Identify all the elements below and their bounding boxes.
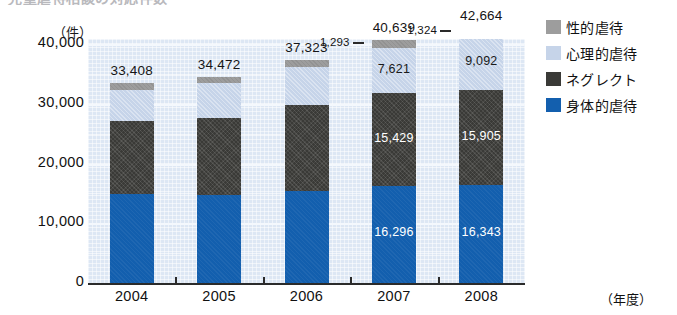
bar-segment-psych-2005[interactable] bbox=[197, 83, 241, 118]
bar-segment-physical-2005[interactable] bbox=[197, 195, 241, 283]
bar-segment-neglect-2004[interactable] bbox=[110, 121, 154, 194]
x-axis-label-2006: 2006 bbox=[272, 288, 342, 304]
x-axis-unit-label: （年度） bbox=[600, 289, 652, 308]
callout-sexual-2008: 1,324 bbox=[407, 24, 451, 36]
bar-2008[interactable]: 9,09215,90516,343 bbox=[459, 39, 503, 283]
bar-total-label-2005: 34,472 bbox=[189, 57, 249, 72]
y-axis-tick-40000: 40,000 bbox=[0, 34, 84, 50]
x-axis-label-2007: 2007 bbox=[359, 288, 429, 304]
callout-leader-line-2007 bbox=[353, 42, 364, 44]
legend-swatch-sexual bbox=[546, 20, 561, 34]
segment-value-physical-2008: 16,343 bbox=[459, 225, 503, 239]
legend-swatch-psych bbox=[546, 46, 561, 60]
x-tick-mark-3 bbox=[438, 277, 440, 285]
x-axis-label-2008: 2008 bbox=[446, 288, 516, 304]
legend-swatch-physical bbox=[546, 98, 561, 112]
bar-segment-psych-2006[interactable] bbox=[285, 67, 329, 105]
legend-item-physical[interactable]: 身体的虐待 bbox=[546, 92, 638, 118]
x-tick-mark-2 bbox=[350, 277, 352, 285]
bar-segment-psych-2004[interactable] bbox=[110, 90, 154, 121]
legend-label-neglect: ネグレクト bbox=[566, 69, 638, 89]
bar-2007[interactable]: 7,62115,42916,296 bbox=[372, 40, 416, 283]
x-tick-mark-0 bbox=[175, 277, 177, 285]
callout-sexual-2007: 1,293 bbox=[320, 36, 364, 48]
callout-leader-line-2008 bbox=[440, 30, 451, 32]
bar-total-label-2004: 33,408 bbox=[102, 63, 162, 78]
bar-2005[interactable] bbox=[197, 77, 241, 283]
legend-label-sexual: 性的虐待 bbox=[566, 17, 623, 37]
callout-value-2007: 1,293 bbox=[320, 36, 350, 48]
bar-segment-psych-2008[interactable]: 9,092 bbox=[459, 39, 503, 90]
x-axis-label-2004: 2004 bbox=[97, 288, 167, 304]
legend-label-physical: 身体的虐待 bbox=[566, 95, 638, 115]
bar-segment-physical-2004[interactable] bbox=[110, 194, 154, 283]
bar-2006[interactable] bbox=[285, 60, 329, 283]
bar-total-label-2008: 42,664 bbox=[451, 8, 511, 23]
y-axis-tick-20000: 20,000 bbox=[0, 154, 84, 170]
stacked-bar-chart-figure: 児童虐待相談の対応件数 （件） 40,00030,00020,00010,000… bbox=[0, 0, 677, 315]
segment-value-psych-2008: 9,092 bbox=[459, 54, 503, 68]
bar-2004[interactable] bbox=[110, 83, 154, 283]
segment-value-neglect-2007: 15,429 bbox=[372, 131, 416, 145]
y-axis-tick-30000: 30,000 bbox=[0, 94, 84, 110]
legend-label-psych: 心理的虐待 bbox=[566, 43, 638, 63]
x-axis-line bbox=[88, 283, 525, 285]
bar-segment-physical-2008[interactable]: 16,343 bbox=[459, 185, 503, 283]
legend-item-neglect[interactable]: ネグレクト bbox=[546, 66, 638, 92]
segment-value-psych-2007: 7,621 bbox=[372, 62, 416, 76]
bar-segment-sexual-2006[interactable] bbox=[285, 60, 329, 67]
segment-value-physical-2007: 16,296 bbox=[372, 225, 416, 239]
legend-item-psych[interactable]: 心理的虐待 bbox=[546, 40, 638, 66]
bar-segment-neglect-2008[interactable]: 15,905 bbox=[459, 90, 503, 185]
bar-segment-psych-2007[interactable]: 7,621 bbox=[372, 48, 416, 94]
bar-segment-neglect-2006[interactable] bbox=[285, 105, 329, 191]
x-tick-mark-1 bbox=[263, 277, 265, 285]
chart-legend: 性的虐待心理的虐待ネグレクト身体的虐待 bbox=[546, 14, 638, 118]
legend-item-sexual[interactable]: 性的虐待 bbox=[546, 14, 638, 40]
callout-value-2008: 1,324 bbox=[407, 24, 437, 36]
segment-value-neglect-2008: 15,905 bbox=[459, 129, 503, 143]
y-axis-tick-10000: 10,000 bbox=[0, 213, 84, 229]
bar-segment-neglect-2005[interactable] bbox=[197, 118, 241, 195]
bar-segment-neglect-2007[interactable]: 15,429 bbox=[372, 93, 416, 185]
bar-segment-physical-2006[interactable] bbox=[285, 191, 329, 283]
x-axis-label-2005: 2005 bbox=[184, 288, 254, 304]
legend-swatch-neglect bbox=[546, 72, 561, 86]
chart-title-text: 児童虐待相談の対応件数 bbox=[8, 0, 168, 5]
bar-segment-physical-2007[interactable]: 16,296 bbox=[372, 186, 416, 283]
y-axis-tick-0: 0 bbox=[0, 273, 84, 289]
bar-segment-sexual-2007[interactable] bbox=[372, 40, 416, 48]
clipped-chart-title: 児童虐待相談の対応件数 bbox=[0, 0, 677, 5]
